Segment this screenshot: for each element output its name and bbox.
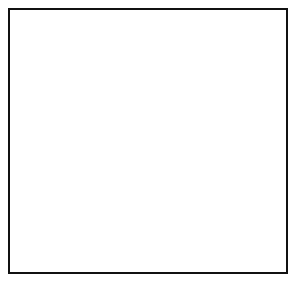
figure-canvas: NORTH AMERICA SOUTH AMERICA EUROPE AFRIC… xyxy=(0,0,300,290)
image-border-frame xyxy=(8,8,288,274)
